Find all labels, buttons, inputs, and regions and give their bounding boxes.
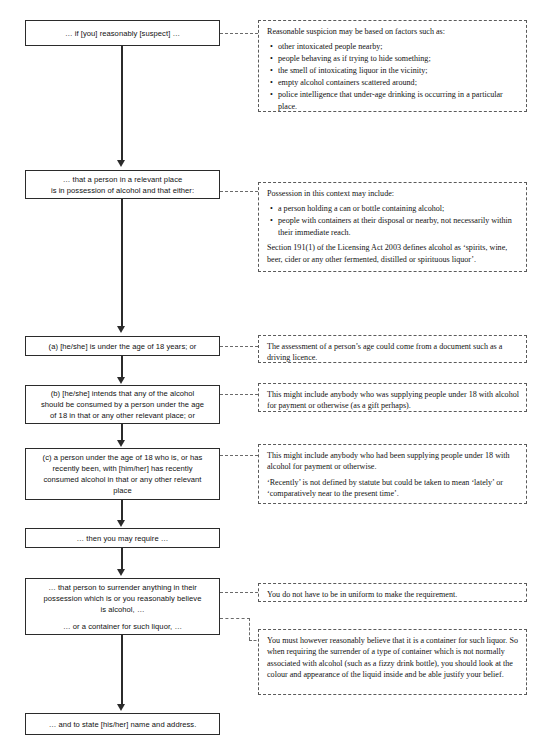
- leader-line-intends: [220, 394, 258, 395]
- leader-line-suspicion: [220, 33, 258, 34]
- note-uniform-text: You do not have to be in uniform to make…: [267, 589, 519, 600]
- flowbox-possession-line-1: … that a person in a relevant place: [63, 174, 183, 185]
- flowbox-intends: (b) [he/she] intends that any of the alc…: [25, 385, 220, 424]
- note-recently-consumed: This might include anybody who had been …: [258, 444, 527, 504]
- connector-1: [121, 46, 123, 161]
- flowbox-require: … then you may require …: [25, 528, 220, 548]
- note-possession-intro: Possession in this context may include:: [267, 188, 519, 199]
- note-container-text: You must however reasonably believe that…: [267, 635, 519, 681]
- list-item: people behaving as if trying to hide som…: [278, 53, 519, 64]
- flowbox-name-address: … and to state [his/her] name and addres…: [25, 713, 220, 735]
- arrowhead-2: [117, 326, 125, 333]
- note-reasonable-suspicion: Reasonable suspicion may be based on fac…: [258, 20, 527, 112]
- flowbox-intends-line-3: of 18 in that or any other relevant plac…: [50, 410, 195, 421]
- flowbox-surrender-line-1: … that person to surrender anything in t…: [43, 582, 201, 593]
- flowbox-surrender-line-2: possession which is or you reasonably be…: [43, 593, 201, 604]
- flowchart-page: … if [you] reasonably [suspect] … … that…: [0, 0, 543, 745]
- note-age-text: The assessment of a person’s age could c…: [267, 341, 519, 364]
- flowbox-suspect-line-1: … if [you] reasonably [suspect] …: [65, 28, 180, 39]
- note-recently-text-1: This might include anybody who had been …: [267, 450, 519, 473]
- leader-line-container-a: [220, 618, 250, 619]
- flowbox-possession: … that a person in a relevant place is i…: [25, 170, 220, 199]
- flowbox-possession-line-2: is in possession of alcohol and that eit…: [51, 185, 194, 196]
- arrowhead-4: [117, 440, 125, 447]
- arrowhead-3: [117, 377, 125, 384]
- list-item: people with containers at their disposal…: [278, 215, 519, 238]
- list-item: the smell of intoxicating liquor in the …: [278, 65, 519, 76]
- flowbox-surrender: … that person to surrender anything in t…: [25, 578, 220, 635]
- list-item: a person holding a can or bottle contain…: [278, 203, 519, 214]
- flowbox-consumed-line-4: place: [113, 485, 131, 496]
- flowbox-consumed-line-2: recently been, with [him/her] has recent…: [52, 463, 192, 474]
- note-suspicion-intro: Reasonable suspicion may be based on fac…: [267, 26, 519, 37]
- flowbox-surrender-line-4: … or a container for such liquor, …: [63, 621, 182, 632]
- leader-line-possession: [220, 191, 258, 192]
- note-recently-text-2: ‘Recently’ is not defined by statute but…: [267, 477, 519, 500]
- note-possession-list: a person holding a can or bottle contain…: [267, 203, 519, 238]
- flowbox-consumed-line-3: consumed alcohol in that or any other re…: [43, 474, 201, 485]
- leader-line-uniform: [220, 592, 258, 593]
- flowbox-name-address-line-1: … and to state [his/her] name and addres…: [49, 719, 197, 730]
- leader-line-consumed: [220, 455, 258, 456]
- leader-vert-container: [249, 618, 250, 640]
- arrowhead-5: [117, 520, 125, 527]
- flowbox-intends-line-2: should be consumed by a person under the…: [41, 399, 204, 410]
- flowbox-consumed-line-1: (c) a person under the age of 18 who is,…: [43, 452, 203, 463]
- arrowhead-7: [117, 704, 125, 711]
- connector-3: [121, 356, 123, 378]
- list-item: other intoxicated people nearby;: [278, 41, 519, 52]
- flowbox-surrender-line-3: is alcohol, …: [43, 604, 201, 615]
- flowbox-age-line-1: (a) [he/she] is under the age of 18 year…: [49, 341, 197, 352]
- arrowhead-1: [117, 160, 125, 167]
- note-container-belief: You must however reasonably believe that…: [258, 629, 527, 695]
- note-intends-text: This might include anybody who was suppl…: [267, 389, 519, 412]
- note-possession-statute: Section 191(1) of the Licensing Act 2003…: [267, 242, 519, 265]
- connector-7: [121, 635, 123, 705]
- note-possession: Possession in this context may include: …: [258, 182, 527, 272]
- flowbox-require-line-1: … then you may require …: [77, 533, 169, 544]
- note-intends-supply: This might include anybody who was suppl…: [258, 383, 527, 412]
- flowbox-age: (a) [he/she] is under the age of 18 year…: [25, 336, 220, 356]
- note-uniform: You do not have to be in uniform to make…: [258, 583, 527, 602]
- arrowhead-6: [117, 569, 125, 576]
- flowbox-intends-line-1: (b) [he/she] intends that any of the alc…: [51, 388, 195, 399]
- connector-5: [121, 500, 123, 521]
- connector-2: [121, 199, 123, 327]
- note-suspicion-list: other intoxicated people nearby; people …: [267, 41, 519, 112]
- flowbox-consumed: (c) a person under the age of 18 who is,…: [25, 448, 220, 500]
- list-item: empty alcohol containers scattered aroun…: [278, 77, 519, 88]
- list-item: police intelligence that under-age drink…: [278, 89, 519, 112]
- flowbox-suspect: … if [you] reasonably [suspect] …: [25, 20, 220, 46]
- note-age-assessment: The assessment of a person’s age could c…: [258, 335, 527, 363]
- flowbox-surrender-group-1: … that person to surrender anything in t…: [43, 582, 201, 615]
- connector-6: [121, 548, 123, 570]
- connector-4: [121, 424, 123, 441]
- leader-line-age: [220, 346, 258, 347]
